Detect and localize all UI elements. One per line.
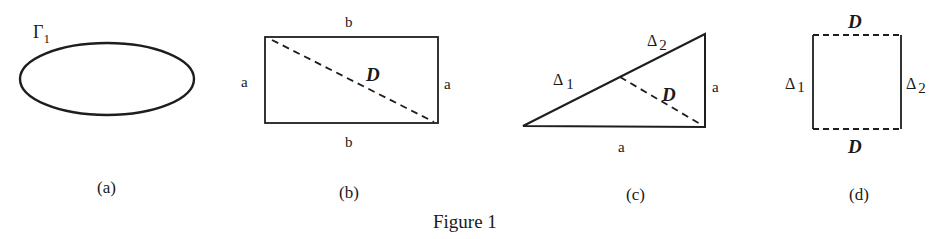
side-a-right: a bbox=[712, 79, 719, 95]
figure-caption: Figure 1 bbox=[433, 211, 497, 232]
panel-a: Γ1 (a) bbox=[20, 22, 194, 197]
panel-d-caption: (d) bbox=[849, 185, 869, 204]
bottom-label-D: D bbox=[847, 136, 862, 157]
figure-canvas: Γ1 (a) b b a a D (b) Δ2 Δ1 D a a (c) D D… bbox=[0, 0, 948, 239]
panel-c-caption: (c) bbox=[626, 185, 645, 204]
side-a-right: a bbox=[444, 76, 451, 92]
side-b-top: b bbox=[345, 14, 353, 30]
delta1-label: Δ1 bbox=[553, 71, 574, 92]
panel-b: b b a a D (b) bbox=[241, 14, 451, 202]
delta2-label: Δ2 bbox=[647, 32, 667, 53]
diagonal-label-D: D bbox=[365, 64, 380, 85]
dashed-segment bbox=[620, 77, 702, 125]
delta1-label: Δ1 bbox=[785, 75, 805, 95]
side-a-bottom: a bbox=[618, 139, 625, 155]
delta2-label: Δ2 bbox=[906, 75, 926, 96]
gamma-label: Γ1 bbox=[33, 22, 50, 46]
panel-c: Δ2 Δ1 D a a (c) bbox=[523, 32, 719, 204]
panel-d: D D Δ1 Δ2 (d) bbox=[785, 11, 926, 204]
closed-curve-gamma1 bbox=[20, 43, 194, 115]
dashed-diagonal bbox=[272, 40, 434, 122]
panel-a-caption: (a) bbox=[97, 178, 116, 197]
side-a-left: a bbox=[241, 74, 248, 90]
right-triangle bbox=[523, 34, 705, 127]
side-b-bottom: b bbox=[345, 134, 353, 150]
top-label-D: D bbox=[847, 11, 862, 32]
panel-b-caption: (b) bbox=[339, 183, 359, 202]
dashed-label-D: D bbox=[661, 84, 676, 105]
